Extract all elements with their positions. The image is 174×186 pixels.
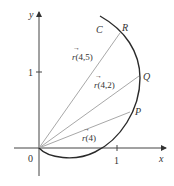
vector-label-r-4: → r(4) — [82, 125, 96, 143]
vector-label-r-4-2: → r(4,2) — [94, 72, 115, 90]
vector-curve-diagram: y x 0 1 1 C R Q P → r(4,5) → r(4,2) → r(… — [0, 0, 174, 186]
vector-arg: (4) — [86, 133, 97, 143]
x-axis-label: x — [158, 153, 164, 164]
vector-label-r-4-5: → r(4,5) — [72, 44, 93, 62]
point-label-r: R — [121, 22, 128, 33]
y-axis-label: y — [28, 9, 34, 20]
curve-label-c: C — [96, 24, 103, 35]
svg-text:r(4,2): r(4,2) — [94, 80, 115, 90]
x-tick-label: 1 — [114, 155, 119, 166]
point-label-q: Q — [143, 71, 151, 82]
vector-arrow-icon: → — [95, 72, 102, 80]
vector-arrow-icon: → — [73, 44, 80, 52]
svg-text:r(4): r(4) — [82, 133, 96, 143]
vector-arg: (4,5) — [76, 52, 93, 62]
vector-arg: (4,2) — [98, 80, 115, 90]
point-label-p: P — [134, 106, 141, 117]
origin-label: 0 — [28, 153, 33, 164]
svg-text:r(4,5): r(4,5) — [72, 52, 93, 62]
vector-arrow-icon: → — [83, 125, 90, 133]
y-tick-label: 1 — [28, 67, 33, 78]
